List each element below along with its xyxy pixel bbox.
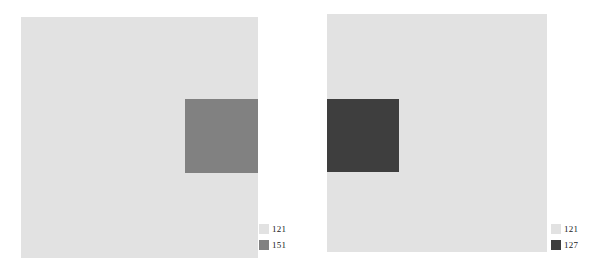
legend-value-label: 121 [564, 224, 578, 234]
left-stimulus-square [21, 17, 258, 258]
right-stimulus-square [327, 14, 547, 252]
legend-item: 151 [259, 240, 286, 250]
legend-swatch-background [551, 224, 561, 234]
legend-value-label: 151 [272, 240, 286, 250]
figure-canvas: 121 151 121 127 [0, 0, 589, 280]
left-legend: 121 151 [259, 224, 286, 250]
legend-value-label: 121 [272, 224, 286, 234]
legend-swatch-inner [551, 240, 561, 250]
legend-swatch-background [259, 224, 269, 234]
legend-item: 121 [551, 224, 578, 234]
legend-value-label: 127 [564, 240, 578, 250]
legend-item: 121 [259, 224, 286, 234]
right-inner-patch [327, 99, 399, 172]
legend-swatch-inner [259, 240, 269, 250]
right-legend: 121 127 [551, 224, 578, 250]
legend-item: 127 [551, 240, 578, 250]
left-inner-patch [185, 99, 258, 173]
